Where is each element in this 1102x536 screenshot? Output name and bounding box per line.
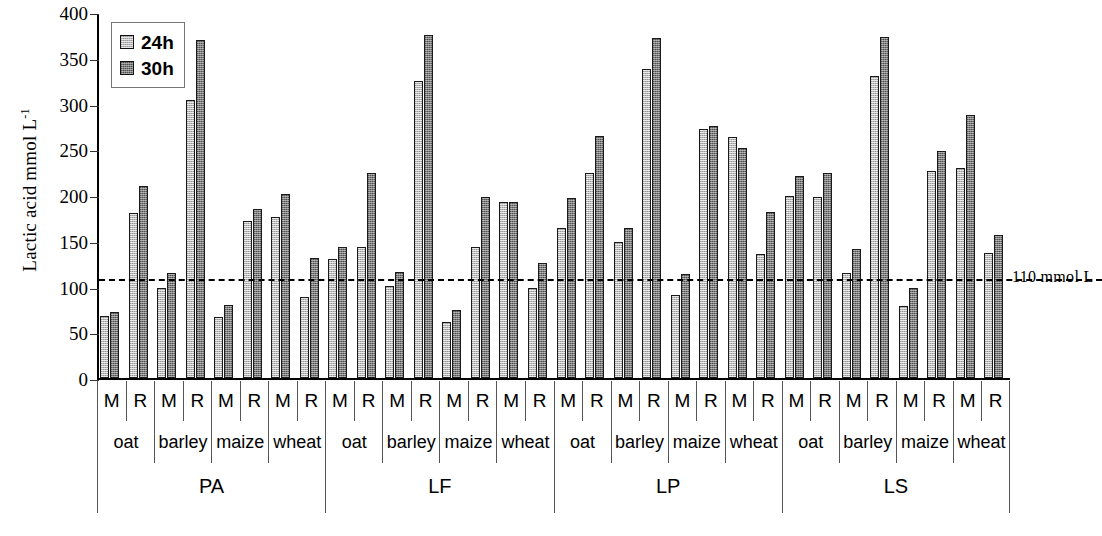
bar-30h — [310, 258, 319, 378]
axis-label-sample: R — [240, 381, 269, 421]
axis-label-sample: R — [753, 381, 782, 421]
bar-group — [270, 14, 299, 378]
axis-label-sample: M — [325, 381, 354, 421]
bar-group — [384, 14, 413, 378]
axis-label-grain: wheat — [725, 421, 782, 463]
axis-label-grain: maize — [439, 421, 496, 463]
y-axis-tick-label: 150 — [42, 233, 88, 252]
bar-group — [784, 14, 813, 378]
bar-30h — [196, 40, 205, 378]
axis-label-grain: maize — [896, 421, 953, 463]
bar-30h — [624, 228, 633, 378]
bar-24h — [499, 202, 508, 378]
bar-group — [812, 14, 841, 378]
y-axis-tick — [90, 14, 99, 15]
bar-24h — [300, 297, 309, 378]
bar-group — [869, 14, 898, 378]
bar-24h — [328, 259, 337, 378]
lactic-acid-bar-chart: Lactic acid mmol L-1 0501001502002503003… — [0, 0, 1102, 536]
y-axis-tick-label: 300 — [42, 96, 88, 115]
bars-layer — [99, 14, 1010, 378]
axis-label-sample: M — [97, 381, 126, 421]
bar-24h — [614, 242, 623, 378]
axis-label-sample: R — [297, 381, 326, 421]
axis-row-grain: oatbarleymaizewheatoatbarleymaizewheatoa… — [97, 421, 1010, 463]
bar-24h — [414, 81, 423, 378]
bar-24h — [129, 213, 138, 378]
bar-group — [327, 14, 356, 378]
bar-24h — [557, 228, 566, 378]
bar-30h — [994, 235, 1003, 378]
axis-label-treatment: LP — [554, 463, 782, 513]
legend-swatch-30h-icon — [120, 61, 134, 75]
axis-label-sample: M — [154, 381, 183, 421]
axis-label-sample: R — [468, 381, 497, 421]
bar-24h — [100, 316, 109, 378]
legend-item-24h: 24h — [120, 29, 174, 55]
bar-30h — [281, 194, 290, 378]
bar-30h — [766, 212, 775, 378]
y-axis-tick — [90, 197, 99, 198]
bar-24h — [528, 288, 537, 378]
bar-30h — [738, 148, 747, 378]
axis-label-sample: R — [183, 381, 212, 421]
bar-30h — [595, 136, 604, 378]
bar-group — [641, 14, 670, 378]
bar-group — [698, 14, 727, 378]
axis-label-sample: M — [554, 381, 583, 421]
bar-30h — [937, 151, 946, 378]
bar-group — [185, 14, 214, 378]
bar-24h — [214, 317, 223, 378]
axis-label-grain: barley — [382, 421, 439, 463]
axis-label-grain: wheat — [268, 421, 325, 463]
axis-label-sample: R — [924, 381, 953, 421]
bar-30h — [652, 38, 661, 378]
axis-label-sample: R — [126, 381, 155, 421]
axis-label-grain: maize — [668, 421, 725, 463]
axis-label-sample: M — [611, 381, 640, 421]
axis-label-sample: M — [382, 381, 411, 421]
bar-30h — [424, 35, 433, 378]
bar-30h — [823, 173, 832, 378]
bar-group — [584, 14, 613, 378]
axis-label-sample: M — [725, 381, 754, 421]
bar-24h — [699, 129, 708, 378]
y-axis-tick — [90, 289, 99, 290]
bar-24h — [927, 171, 936, 378]
bar-24h — [642, 69, 651, 378]
y-axis-tick-label: 50 — [42, 324, 88, 343]
bar-30h — [452, 310, 461, 378]
bar-30h — [567, 198, 576, 378]
bar-30h — [367, 173, 376, 378]
y-axis-tick — [90, 106, 99, 107]
axis-label-grain: oat — [782, 421, 839, 463]
axis-label-sample: M — [496, 381, 525, 421]
axis-label-grain: wheat — [953, 421, 1010, 463]
bar-24h — [585, 173, 594, 378]
bar-group — [727, 14, 756, 378]
bar-group — [955, 14, 984, 378]
bar-24h — [442, 322, 451, 378]
axis-label-sample: M — [211, 381, 240, 421]
bar-30h — [224, 305, 233, 378]
bar-24h — [785, 196, 794, 378]
bar-group — [841, 14, 870, 378]
axis-label-sample: R — [639, 381, 668, 421]
bar-group — [527, 14, 556, 378]
axis-label-grain: oat — [97, 421, 154, 463]
legend-label-30h: 30h — [141, 59, 174, 78]
bar-group — [242, 14, 271, 378]
threshold-annotation-label: 110 mmol L — [1012, 268, 1094, 286]
y-axis-tick-label: 100 — [42, 279, 88, 298]
axis-label-treatment: LF — [325, 463, 553, 513]
axis-label-sample: R — [696, 381, 725, 421]
axis-label-grain: wheat — [496, 421, 553, 463]
bar-24h — [357, 247, 366, 378]
axis-label-treatment: PA — [97, 463, 325, 513]
y-axis-tick — [90, 243, 99, 244]
bar-24h — [842, 273, 851, 378]
legend: 24h 30h — [111, 22, 185, 88]
bar-30h — [338, 247, 347, 378]
bar-24h — [728, 137, 737, 378]
bar-30h — [139, 186, 148, 378]
